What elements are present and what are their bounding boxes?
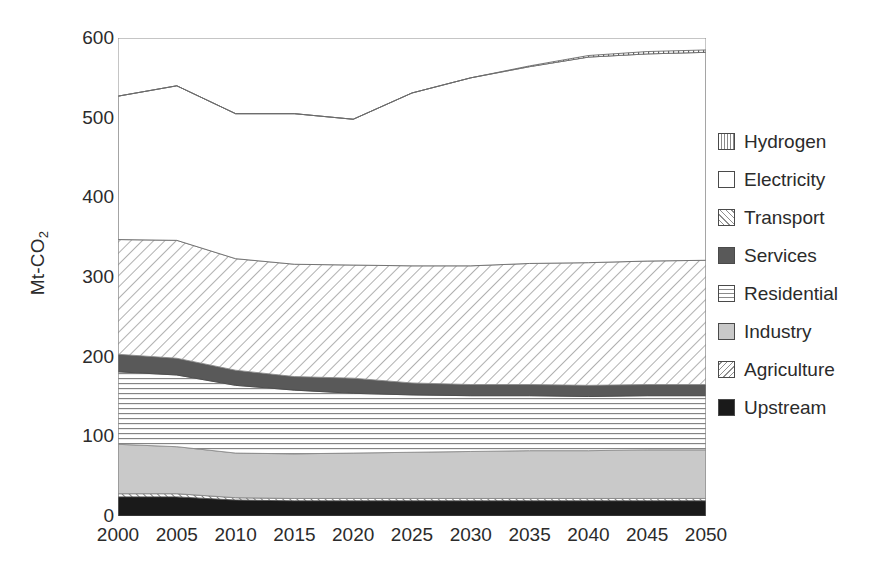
legend-item-hydrogen[interactable]: Hydrogen	[718, 122, 876, 160]
diagonal-hatch-swatch-icon	[718, 209, 735, 226]
y-axis-tick: 400	[54, 186, 114, 208]
y-axis-tick: 200	[54, 346, 114, 368]
legend-item-transport[interactable]: Transport	[718, 198, 876, 236]
plot-area	[118, 38, 706, 516]
legend-item-label: Residential	[744, 284, 838, 303]
y-axis-label: Mt-CO2	[27, 203, 49, 323]
legend-item-label: Transport	[744, 208, 825, 227]
legend-item-electricity[interactable]: Electricity	[718, 160, 876, 198]
legend-item-label: Upstream	[744, 398, 826, 417]
vertical-hatch-swatch-icon	[718, 133, 735, 150]
y-axis-tick: 100	[54, 425, 114, 447]
y-axis-tick: 600	[54, 27, 114, 49]
area-band-electricity	[118, 52, 706, 266]
chart-root: Mt-CO2 0100200300400500600 2000200520102…	[0, 0, 876, 581]
legend-item-label: Hydrogen	[744, 132, 826, 151]
legend-item-label: Industry	[744, 322, 812, 341]
y-axis-tick: 500	[54, 107, 114, 129]
legend-item-residential[interactable]: Residential	[718, 274, 876, 312]
dark-gray-swatch-icon	[718, 247, 735, 264]
legend-item-agriculture[interactable]: Agriculture	[718, 350, 876, 388]
back-diagonal-hatch-swatch-icon	[718, 361, 735, 378]
legend-item-upstream[interactable]: Upstream	[718, 388, 876, 426]
legend-item-services[interactable]: Services	[718, 236, 876, 274]
stacked-area-svg	[118, 38, 706, 516]
light-gray-swatch-icon	[718, 323, 735, 340]
y-axis-tick-labels: 0100200300400500600	[48, 0, 114, 581]
x-axis-tick: 2050	[671, 524, 741, 546]
y-axis-tick: 300	[54, 266, 114, 288]
legend-item-industry[interactable]: Industry	[718, 312, 876, 350]
legend-item-label: Services	[744, 246, 817, 265]
black-swatch-icon	[718, 399, 735, 416]
white-swatch-icon	[718, 171, 735, 188]
y-axis-label-text: Mt-CO	[27, 238, 48, 295]
horizontal-hatch-swatch-icon	[718, 285, 735, 302]
legend-item-label: Agriculture	[744, 360, 835, 379]
legend: HydrogenElectricityTransportServicesResi…	[718, 122, 876, 426]
legend-item-label: Electricity	[744, 170, 825, 189]
